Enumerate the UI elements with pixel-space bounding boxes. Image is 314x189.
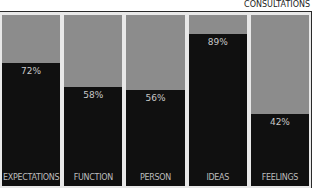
bar-value-label: 89% — [189, 37, 247, 47]
bar-value-label: 56% — [126, 93, 184, 103]
bar-fill: 58% — [64, 87, 122, 186]
bar-fill: 89% — [189, 34, 247, 186]
bar-value-label: 42% — [251, 117, 309, 127]
bar-ideas: 89% IDEAS — [189, 15, 247, 186]
bar-expectations: 72% EXPECTATIONS — [2, 15, 60, 186]
category-label: EXPECTATIONS — [2, 173, 60, 183]
bar-feelings: 42% FEELINGS — [251, 15, 309, 186]
category-label: FEELINGS — [251, 173, 309, 183]
category-label: IDEAS — [189, 173, 247, 183]
bar-function: 58% FUNCTION — [64, 15, 122, 186]
chart-title: CONSULTATIONS — [244, 0, 310, 10]
bar-value-label: 72% — [2, 66, 60, 76]
category-label: FUNCTION — [64, 173, 122, 183]
bar-person: 56% PERSON — [126, 15, 184, 186]
bar-value-label: 58% — [64, 90, 122, 100]
bar-fill: 56% — [126, 90, 184, 186]
category-label: PERSON — [126, 173, 184, 183]
bar-chart: 72% EXPECTATIONS 58% FUNCTION 56% PERSON… — [2, 15, 309, 186]
bar-fill: 72% — [2, 63, 60, 186]
